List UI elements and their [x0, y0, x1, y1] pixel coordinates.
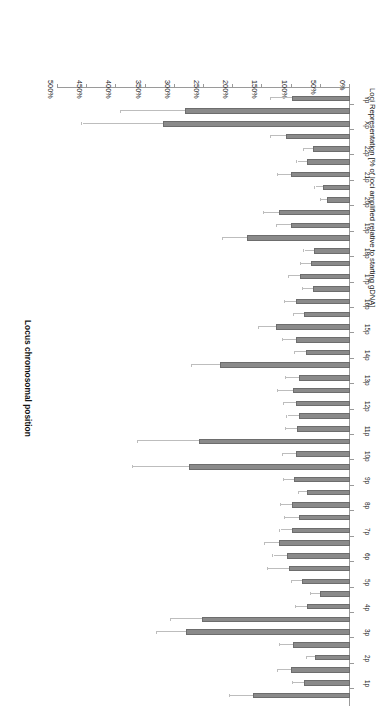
- error-bar: [286, 428, 298, 429]
- error-bar: [271, 97, 292, 98]
- value-tick-label: 300%: [163, 80, 172, 99]
- bar: [304, 312, 350, 318]
- category-tick: [350, 383, 354, 384]
- error-bar-cap: [298, 491, 299, 494]
- error-bar-cap: [270, 135, 271, 138]
- error-bar: [288, 415, 299, 416]
- error-bar: [230, 695, 253, 696]
- bar: [287, 553, 350, 559]
- bar: [302, 579, 350, 585]
- category-tick-label: 14p: [364, 350, 371, 361]
- category-tick: [350, 638, 354, 639]
- bar: [247, 235, 350, 241]
- error-bar-cap: [191, 364, 192, 367]
- category-tick: [350, 180, 354, 181]
- bar: [295, 477, 351, 483]
- category-tick: [350, 205, 354, 206]
- error-bar-cap: [292, 681, 293, 684]
- error-bar-cap: [277, 669, 278, 672]
- category-tick-label: 7p: [364, 528, 371, 535]
- error-bar: [264, 212, 279, 213]
- value-tick-label: 450%: [75, 80, 84, 99]
- value-tick: [115, 84, 116, 88]
- bar: [297, 426, 350, 432]
- category-tick-label: 4p: [364, 604, 371, 611]
- error-bar: [283, 339, 295, 340]
- value-tick-label: 50%: [309, 80, 318, 95]
- category-tick-label: 3p: [364, 630, 371, 637]
- error-bar: [299, 491, 307, 492]
- bar: [189, 464, 350, 470]
- error-bar-cap: [229, 694, 230, 697]
- value-tick-label: 0%: [338, 80, 347, 91]
- error-bar-cap: [120, 110, 121, 113]
- bar: [253, 693, 350, 699]
- category-tick: [350, 129, 354, 130]
- category-tick: [350, 688, 354, 689]
- value-axis-title: Loci Representation [% of loci amplified…: [368, 88, 377, 307]
- category-tick: [350, 587, 354, 588]
- error-bar-cap: [295, 605, 296, 608]
- value-tick: [86, 84, 87, 88]
- bar: [163, 121, 350, 127]
- category-tick: [350, 307, 354, 308]
- error-bar-cap: [137, 440, 138, 443]
- bar: [313, 286, 350, 292]
- error-bar: [292, 580, 303, 581]
- bar: [279, 540, 350, 546]
- bar: [292, 528, 350, 534]
- error-bar-cap: [156, 631, 157, 634]
- bar: [311, 261, 350, 267]
- value-tick: [57, 84, 58, 88]
- error-bar-cap: [284, 516, 285, 519]
- error-bar: [281, 504, 292, 505]
- error-bar: [311, 593, 320, 594]
- error-bar: [133, 466, 189, 467]
- error-bar-cap: [273, 554, 274, 557]
- category-axis-title: Locus chromosomal position: [23, 320, 33, 437]
- bar: [289, 566, 350, 572]
- error-bar-cap: [170, 618, 171, 621]
- bar: [291, 667, 350, 673]
- bar: [286, 134, 350, 140]
- category-tick: [350, 460, 354, 461]
- value-tick-label: 100%: [280, 80, 289, 99]
- bar: [293, 388, 350, 394]
- error-bar-cap: [270, 97, 271, 100]
- error-bar-cap: [280, 529, 281, 532]
- error-bar-cap: [282, 338, 283, 341]
- bar: [306, 350, 350, 356]
- category-tick-label: 15p: [364, 325, 371, 336]
- category-tick-label: 5p: [364, 579, 371, 586]
- error-bar-cap: [279, 643, 280, 646]
- bar: [307, 159, 350, 165]
- error-bar-cap: [310, 593, 311, 596]
- error-bar: [271, 136, 286, 137]
- category-tick: [350, 663, 354, 664]
- category-tick: [350, 434, 354, 435]
- bar: [327, 197, 350, 203]
- category-tick-label: 8p: [364, 502, 371, 509]
- category-tick-label: 10p: [364, 452, 371, 463]
- category-tick-label: 2p: [364, 655, 371, 662]
- bar: [315, 655, 350, 661]
- error-bar-cap: [285, 427, 286, 430]
- error-bar-cap: [284, 300, 285, 303]
- error-bar-cap: [302, 288, 303, 291]
- bar: [199, 439, 350, 445]
- bar: [276, 324, 350, 330]
- value-tick-label: 400%: [104, 80, 113, 99]
- bar: [296, 337, 350, 343]
- bar: [299, 515, 350, 521]
- error-bar-cap: [277, 173, 278, 176]
- error-bar-cap: [285, 376, 286, 379]
- error-bar-cap: [320, 199, 321, 202]
- bar: [292, 502, 350, 508]
- error-bar: [265, 542, 279, 543]
- value-tick: [320, 84, 321, 88]
- error-bar-cap: [222, 237, 223, 240]
- bar: [185, 108, 350, 114]
- error-bar: [281, 529, 292, 530]
- error-bar: [304, 148, 313, 149]
- value-tick: [174, 84, 175, 88]
